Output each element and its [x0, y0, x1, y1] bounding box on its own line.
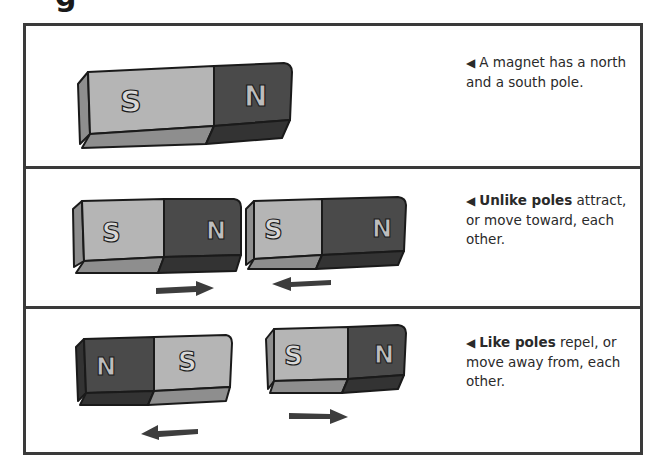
attract-illustration: S N S N — [26, 169, 466, 306]
pointer-left-icon: ◀ — [466, 192, 475, 211]
north-label: N — [206, 217, 226, 245]
arrow-left-icon — [272, 277, 331, 291]
south-label: S — [284, 341, 303, 371]
magnet-illustration: S N — [26, 26, 466, 166]
arrow-right-icon — [156, 281, 214, 296]
north-label: N — [374, 341, 394, 369]
repel-illustration: N S S N — [26, 309, 466, 455]
north-label: N — [372, 215, 392, 243]
pointer-left-icon: ◀ — [466, 334, 475, 353]
south-label: S — [102, 218, 121, 248]
caption-unlike-poles: ◀Unlike poles attract, or move toward, e… — [466, 191, 636, 249]
arrow-left-icon — [141, 425, 198, 440]
heading-fragment: g — [55, 0, 76, 13]
panel-unlike-poles: S N S N ◀Unlike poles attract, or move t… — [26, 166, 640, 306]
south-label: S — [178, 347, 197, 377]
panel-like-poles: N S S N ◀Like poles repel, or move away … — [26, 306, 640, 455]
panel-magnet-poles: S N ◀A magnet has a north and a south po… — [26, 26, 640, 166]
north-label: N — [244, 80, 267, 113]
diagram-frame: S N ◀A magnet has a north and a south po… — [23, 23, 643, 455]
caption-magnet-poles: ◀A magnet has a north and a south pole. — [466, 53, 636, 92]
arrow-right-icon — [289, 409, 348, 424]
south-label: S — [120, 84, 142, 119]
pointer-left-icon: ◀ — [466, 54, 475, 73]
south-label: S — [264, 215, 283, 245]
north-label: N — [96, 353, 116, 381]
caption-like-poles: ◀Like poles repel, or move away from, ea… — [466, 333, 636, 391]
